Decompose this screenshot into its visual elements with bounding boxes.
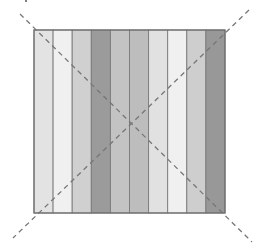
- stripe-2: [53, 30, 72, 213]
- stripe-5: [110, 30, 129, 213]
- stripe-1: [34, 30, 53, 213]
- striped-square-diagram: [0, 0, 266, 252]
- stripe-3: [72, 30, 91, 213]
- stripe-9: [187, 30, 206, 213]
- stripe-6: [130, 30, 149, 213]
- stripe-4: [91, 30, 110, 213]
- stripe-7: [149, 30, 168, 213]
- stripe-8: [168, 30, 187, 213]
- speck-mark: [25, 0, 27, 2]
- stripe-10: [206, 30, 225, 213]
